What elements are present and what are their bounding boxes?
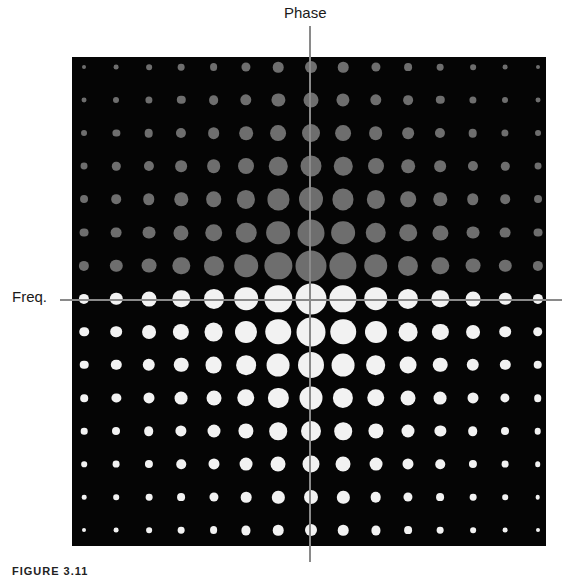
white-dot [82, 495, 87, 500]
gray-dot [144, 129, 153, 138]
gray-dot [338, 62, 349, 73]
gray-dot [368, 158, 384, 174]
gray-dot [364, 254, 388, 278]
phase-axis-label: Phase [284, 4, 327, 21]
white-dot [533, 327, 543, 337]
gray-dot [207, 159, 221, 173]
white-dot [143, 392, 154, 403]
gray-dot [142, 226, 155, 239]
white-dot [533, 361, 542, 370]
white-dot [236, 355, 256, 375]
gray-dot [239, 126, 253, 140]
white-dot [210, 526, 218, 534]
gray-dot [236, 222, 257, 243]
white-dot [174, 358, 189, 373]
white-dot [270, 422, 288, 440]
gray-dot [402, 127, 414, 139]
gray-dot [502, 97, 508, 103]
white-dot [207, 425, 220, 438]
gray-dot [503, 65, 508, 70]
gray-dot [535, 98, 540, 103]
gray-dot [234, 254, 258, 278]
gray-dot [209, 95, 219, 105]
white-dot [365, 321, 387, 343]
white-dot [204, 322, 223, 341]
gray-dot [80, 195, 88, 203]
white-dot [267, 353, 290, 376]
white-dot [114, 495, 120, 501]
gray-dot [399, 224, 417, 242]
gray-dot [534, 163, 541, 170]
white-dot [534, 428, 541, 435]
white-dot [175, 392, 188, 405]
white-dot [240, 458, 253, 471]
freq-axis-label: Freq. [12, 288, 47, 305]
white-dot [436, 459, 446, 469]
freq-axis-line [60, 299, 562, 301]
gray-dot [468, 129, 477, 138]
white-dot [468, 426, 478, 436]
white-dot [241, 492, 252, 503]
gray-dot [466, 226, 479, 239]
gray-dot [365, 222, 386, 243]
white-dot [399, 322, 418, 341]
gray-dot [465, 258, 480, 273]
gray-dot [267, 221, 291, 245]
white-dot [336, 457, 351, 472]
white-dot [208, 459, 219, 470]
gray-dot [238, 158, 254, 174]
white-dot [81, 461, 87, 467]
gray-dot [369, 126, 383, 140]
white-dot [82, 528, 86, 532]
gray-dot [535, 130, 541, 136]
gray-dot [112, 195, 122, 205]
gray-dot [273, 62, 284, 73]
white-dot [433, 358, 448, 373]
white-dot [470, 528, 476, 534]
white-dot [266, 319, 292, 345]
gray-dot [331, 221, 355, 245]
gray-dot [205, 224, 223, 242]
white-dot [534, 394, 542, 402]
white-dot [332, 353, 355, 376]
white-dot [178, 527, 185, 534]
gray-dot [401, 159, 415, 173]
white-dot [79, 327, 89, 337]
gray-dot [500, 195, 510, 205]
white-dot [81, 428, 88, 435]
white-dot [434, 392, 447, 405]
gray-dot [143, 194, 155, 206]
gray-dot [111, 227, 122, 238]
white-dot [466, 325, 480, 339]
white-dot [366, 355, 386, 375]
gray-dot [403, 95, 413, 105]
gray-dot [270, 125, 286, 141]
white-dot [113, 461, 120, 468]
white-dot [177, 493, 185, 501]
gray-dot [210, 63, 218, 71]
gray-dot [81, 130, 87, 136]
white-dot [144, 426, 154, 436]
gray-dot [437, 64, 444, 71]
white-dot [330, 319, 356, 345]
gray-dot [335, 125, 351, 141]
white-dot [402, 459, 413, 470]
gray-dot [333, 189, 354, 210]
gray-dot [175, 160, 187, 172]
white-dot [370, 492, 381, 503]
gray-dot [178, 64, 185, 71]
white-dot [369, 458, 382, 471]
gray-dot [470, 64, 476, 70]
gray-dot [206, 192, 222, 208]
white-dot [145, 494, 152, 501]
white-dot [400, 356, 417, 373]
white-dot [176, 459, 186, 469]
white-dot [502, 495, 508, 501]
gray-dot [114, 65, 119, 70]
white-dot [535, 495, 540, 500]
white-dot [502, 461, 509, 468]
white-dot [142, 325, 156, 339]
figure-caption: FIGURE 3.11 [12, 565, 88, 577]
gray-dot [404, 63, 412, 71]
white-dot [402, 425, 415, 438]
